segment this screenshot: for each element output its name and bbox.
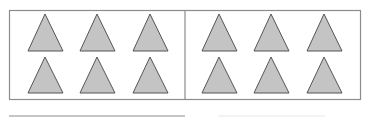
triangle-icon <box>202 14 237 51</box>
triangle-icon <box>28 57 63 93</box>
triangle-icon <box>254 14 289 51</box>
triangle-icon <box>307 14 342 51</box>
triangle-icon <box>202 57 237 93</box>
left-group <box>28 14 168 93</box>
triangle-icon <box>80 14 115 51</box>
triangle-icon <box>133 57 168 93</box>
triangle-icon <box>28 14 63 51</box>
triangle-icon <box>307 57 342 93</box>
triangle-icon <box>80 57 115 93</box>
triangle-icon <box>133 14 168 51</box>
triangle-groups-diagram <box>0 0 366 117</box>
right-group <box>202 14 342 93</box>
triangle-icon <box>254 57 289 93</box>
